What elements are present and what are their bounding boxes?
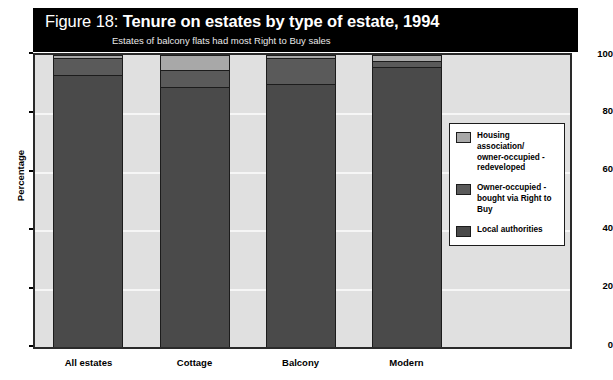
- legend-label-line1: Local authorities: [477, 225, 543, 234]
- title-line: Figure 18: Tenure on estates by type of …: [45, 12, 439, 31]
- bar-segment-owner-occupied: [160, 70, 230, 88]
- bar-modern: [372, 55, 442, 347]
- y-tick-label-60: 60: [587, 163, 613, 174]
- bar-segment-local-authorities: [53, 75, 123, 347]
- bar-segment-owner-occupied: [266, 58, 336, 84]
- legend-label-owner-occupied: Owner-occupied - bought via Right to Buy: [477, 183, 558, 215]
- y-tick-label-40: 40: [587, 222, 613, 233]
- x-tick-label-balcony: Balcony: [248, 357, 353, 368]
- figure-number: Figure 18:: [45, 12, 118, 30]
- bar-segment-housing-association: [372, 55, 442, 61]
- legend-label-line2: bought via Right to Buy: [477, 194, 552, 214]
- bar-segment-housing-association: [160, 55, 230, 70]
- bar-cottage: [160, 55, 230, 347]
- bar-segment-local-authorities: [372, 67, 442, 347]
- legend-label-line1: Housing association/: [477, 131, 524, 151]
- y-tick-label-100: 100: [587, 48, 613, 59]
- legend-label-line3: redeveloped: [477, 163, 525, 172]
- y-tick-label-0: 0: [587, 339, 613, 350]
- x-tick-label-all-estates: All estates: [36, 357, 141, 368]
- legend-swatch-housing-association: [456, 132, 471, 143]
- bar-segment-housing-association: [53, 55, 123, 58]
- bar-all-estates: [53, 55, 123, 347]
- legend-swatch-owner-occupied: [456, 184, 471, 195]
- title-band: Figure 18: Tenure on estates by type of …: [33, 8, 578, 52]
- legend-label-housing-association: Housing association/ owner-occupied - re…: [477, 131, 558, 174]
- bar-segment-local-authorities: [266, 84, 336, 347]
- legend-item-local-authorities: Local authorities: [456, 225, 558, 237]
- bar-segment-local-authorities: [160, 87, 230, 347]
- legend-label-line2: owner-occupied -: [477, 153, 545, 162]
- x-tick-label-modern: Modern: [354, 357, 459, 368]
- legend-swatch-local-authorities: [456, 226, 471, 237]
- legend-label-line1: Owner-occupied -: [477, 183, 546, 192]
- y-tick-label-80: 80: [587, 105, 613, 116]
- legend-item-housing-association: Housing association/ owner-occupied - re…: [456, 131, 558, 174]
- bar-balcony: [266, 55, 336, 347]
- page-title: Tenure on estates by type of estate, 199…: [123, 12, 440, 30]
- x-tick-label-cottage: Cottage: [142, 357, 247, 368]
- bar-segment-housing-association: [266, 55, 336, 58]
- figure-subtitle: Estates of balcony flats had most Right …: [112, 35, 331, 46]
- legend-label-local-authorities: Local authorities: [477, 225, 543, 236]
- chart-legend: Housing association/ owner-occupied - re…: [449, 123, 565, 246]
- figure-container: Figure 18: Tenure on estates by type of …: [0, 0, 613, 380]
- y-tick-label-20: 20: [587, 280, 613, 291]
- bar-segment-owner-occupied: [372, 61, 442, 67]
- legend-item-owner-occupied: Owner-occupied - bought via Right to Buy: [456, 183, 558, 215]
- bar-segment-owner-occupied: [53, 58, 123, 76]
- y-axis-label: Percentage: [15, 126, 26, 226]
